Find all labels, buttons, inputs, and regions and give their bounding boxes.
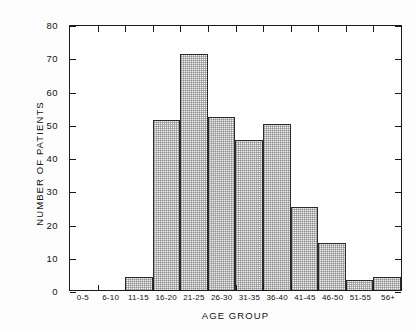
x-label-56plus: 56+ [374, 293, 402, 302]
x-label-31-35: 31-35 [236, 293, 264, 302]
x-tick-8 [291, 285, 292, 290]
y-axis-title: NUMBER OF PATIENTS [34, 39, 45, 289]
x-tick-4 [180, 285, 181, 290]
x-axis-tick-labels: 0-56-1011-1516-2021-2526-3031-3536-4041-… [69, 293, 402, 302]
y-tick-label-40: 40 [46, 153, 58, 164]
x-label-21-25: 21-25 [180, 293, 208, 302]
x-tick-top-6 [236, 26, 237, 32]
y-axis-tick-labels: 01020304050607080 [0, 25, 64, 291]
x-tick-top-3 [153, 26, 154, 32]
x-tick-top-11 [373, 26, 374, 32]
x-tick-top-7 [263, 26, 264, 32]
x-tick-2 [125, 285, 126, 290]
x-label-0-5: 0-5 [69, 293, 97, 302]
x-label-16-20: 16-20 [152, 293, 180, 302]
y-tick-label-80: 80 [46, 20, 58, 31]
y-tick-label-70: 70 [46, 53, 58, 64]
x-tick-top-9 [318, 26, 319, 32]
x-tick-7 [263, 285, 264, 290]
y-tick-label-20: 20 [46, 219, 58, 230]
x-tick-top-4 [180, 26, 181, 32]
x-tick-6 [236, 285, 237, 290]
x-tick-top-5 [208, 26, 209, 32]
x-tick-top-1 [98, 26, 99, 32]
x-tick-10 [346, 285, 347, 290]
x-label-11-15: 11-15 [125, 293, 153, 302]
x-tick-1 [98, 285, 99, 290]
x-tick-3 [153, 285, 154, 290]
plot-area [69, 25, 402, 291]
x-label-26-30: 26-30 [208, 293, 236, 302]
x-label-46-50: 46-50 [319, 293, 347, 302]
x-tick-11 [373, 285, 374, 290]
histogram-figure: 01020304050607080 NUMBER OF PATIENTS 0-5… [0, 0, 416, 332]
x-tick-top-8 [291, 26, 292, 32]
x-label-41-45: 41-45 [291, 293, 319, 302]
y-tick-label-10: 10 [46, 252, 58, 263]
y-tick-label-50: 50 [46, 119, 58, 130]
x-axis-title: AGE GROUP [69, 310, 402, 321]
x-label-6-10: 6-10 [97, 293, 125, 302]
x-tick-top-10 [346, 26, 347, 32]
y-tick-label-30: 30 [46, 186, 58, 197]
x-tick-5 [208, 285, 209, 290]
x-axis-ticks [70, 26, 401, 290]
x-label-36-40: 36-40 [263, 293, 291, 302]
x-tick-top-2 [125, 26, 126, 32]
y-tick-label-60: 60 [46, 86, 58, 97]
y-tick-label-0: 0 [52, 286, 58, 297]
x-label-51-55: 51-55 [347, 293, 375, 302]
x-tick-9 [318, 285, 319, 290]
